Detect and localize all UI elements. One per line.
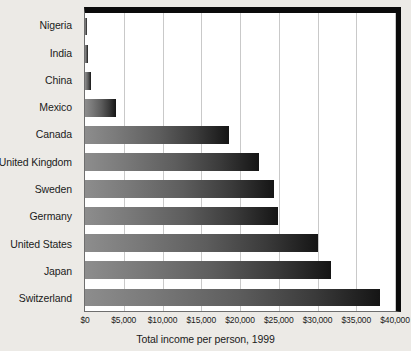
bar-row [85,284,395,311]
bar [85,180,274,198]
value-tick-label: $5,000 [111,315,136,325]
bar [85,261,331,279]
bar [85,99,116,117]
bar-row [85,230,395,257]
bar-row [85,67,395,94]
bar [85,153,259,171]
x-axis-title: Total income per person, 1999 [0,333,411,345]
category-label: China [0,67,78,94]
bar [85,45,88,63]
bar-row [85,40,395,67]
bar-row [85,176,395,203]
value-tick-label: $25,000 [264,315,293,325]
category-label: Nigeria [0,12,78,39]
value-tick-label: $40,000 [380,315,409,325]
bar-row [85,94,395,121]
category-label: India [0,39,78,66]
bar [85,207,278,225]
value-tick-label: $0 [80,315,89,325]
bar-row [85,203,395,230]
category-label: Japan [0,257,78,284]
category-label: Mexico [0,94,78,121]
bar-series [85,13,395,311]
plot-inner [85,13,395,311]
bar [85,72,91,90]
bar-row [85,13,395,40]
bar-row [85,148,395,175]
bar [85,126,229,144]
plot-area [84,7,401,312]
value-tick-label: $30,000 [303,315,332,325]
bar [85,289,380,307]
gridline [395,13,396,311]
bar [85,234,318,252]
category-label: Canada [0,121,78,148]
category-label: United Kingdom [0,148,78,175]
value-tick-label: $10,000 [148,315,177,325]
value-axis: $0$5,000$10,000$15,000$20,000$25,000$30,… [0,315,411,329]
category-label: Sweden [0,176,78,203]
bar-row [85,121,395,148]
category-axis: NigeriaIndiaChinaMexicoCanadaUnited King… [0,12,78,312]
category-label: Germany [0,203,78,230]
value-tick-label: $35,000 [342,315,371,325]
category-label: United States [0,230,78,257]
category-label: Switzerland [0,285,78,312]
value-tick-label: $20,000 [225,315,254,325]
bar-row [85,257,395,284]
bar-chart-figure: NigeriaIndiaChinaMexicoCanadaUnited King… [0,0,411,351]
bar [85,18,87,36]
value-tick-label: $15,000 [187,315,216,325]
